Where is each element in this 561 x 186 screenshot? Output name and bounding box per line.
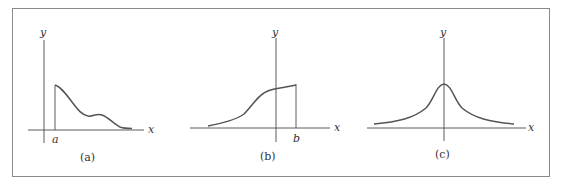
panel-b: y x b (b) [190,26,341,163]
panel-a-caption: (a) [80,151,95,164]
panel-b-x-label: x [334,121,341,134]
panel-b-y-label: y [271,26,279,39]
panel-c-caption: (c) [435,148,450,161]
panel-c: y x (c) [367,26,535,161]
panel-a: y x a (a) [28,26,155,164]
panel-c-x-label: x [528,121,535,134]
panel-b-curve [208,85,296,126]
panel-b-marker-label: b [293,132,300,145]
panel-a-x-label: x [148,123,155,136]
panel-a-curve [55,85,132,129]
panel-a-marker-label: a [52,133,59,146]
panel-a-y-label: y [39,26,47,39]
panel-b-caption: (b) [260,150,276,163]
figure: y x a (a) y x b (b) y x (c) [0,0,561,186]
panel-c-y-label: y [439,26,447,39]
